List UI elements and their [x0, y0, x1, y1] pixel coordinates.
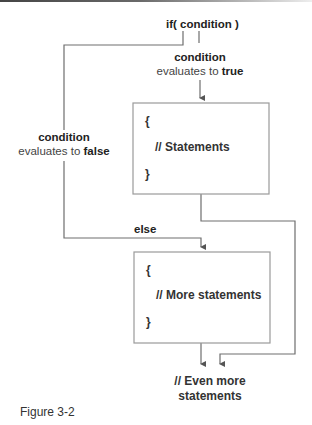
- if-block-body: // Statements: [155, 140, 230, 154]
- else-block-body: // More statements: [156, 288, 261, 302]
- else-block-close-brace: }: [146, 315, 151, 329]
- if-block-close-brace: }: [145, 167, 150, 181]
- end-label-line1: // Even more: [160, 374, 260, 389]
- true-branch-label-value: true: [222, 65, 244, 77]
- false-branch-label-line1: condition: [14, 130, 114, 144]
- else-block-open-brace: {: [146, 263, 151, 277]
- true-branch-label-line1: condition: [150, 50, 250, 64]
- false-branch-label-value: false: [84, 145, 110, 157]
- end-label-line2: statements: [160, 389, 260, 404]
- if-block-open-brace: {: [145, 114, 150, 128]
- else-label: else: [134, 222, 156, 236]
- figure-caption: Figure 3-2: [20, 405, 75, 419]
- if-condition-label: if( condition ): [166, 17, 239, 31]
- true-branch-label: condition evaluates to true: [150, 50, 250, 78]
- false-branch-label-prefix: evaluates to: [18, 145, 83, 157]
- true-branch-label-prefix: evaluates to: [157, 65, 222, 77]
- false-branch-label: condition evaluates to false: [14, 130, 114, 158]
- end-statements-label: // Even more statements: [160, 374, 260, 404]
